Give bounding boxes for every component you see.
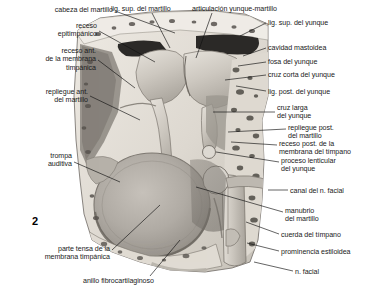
label-line: repliegue post.	[288, 124, 334, 132]
label-line: lig. sup. del yunque	[268, 19, 328, 27]
label-line: cavidad mastoidea	[268, 44, 326, 52]
label-line: epitimpánico	[58, 30, 97, 38]
label-line: canal del n. facial	[290, 187, 344, 195]
label-lig-post-del-yunque: lig. post. del yunque	[268, 88, 330, 96]
label-line: membrana del tímpano	[279, 148, 351, 156]
label-repliegue-post-del-martillo: repliegue post.del martillo	[288, 124, 334, 141]
label-line: auditiva	[48, 160, 72, 168]
label-line: n. facial	[295, 268, 319, 276]
label-line: repliegue ant.	[46, 88, 88, 96]
label-line: trompa	[48, 152, 72, 160]
lenticular-process	[203, 146, 216, 159]
label-prominencia-estiloidea: prominencia estiloidea	[281, 248, 351, 256]
label-proceso-lenticular-del-yunque: proceso lenticulardel yunque	[281, 157, 336, 174]
label-parte-tensa-membrana-timpanica: parte tensa de lamembrana timpánica	[45, 245, 110, 262]
label-trompa-auditiva: trompaauditiva	[48, 152, 72, 169]
label-line: membrana timpánica	[45, 253, 110, 261]
label-line: del yunque	[277, 112, 311, 120]
label-cruz-corta-del-yunque: cruz corta del yunque	[268, 71, 335, 79]
label-line: cabeza del martillo	[55, 6, 113, 14]
label-manubrio-del-martillo: manubriodel martillo	[285, 207, 319, 224]
label-line: fosa del yunque	[268, 58, 317, 66]
label-n-facial: n. facial	[295, 268, 319, 276]
label-fosa-del-yunque: fosa del yunque	[268, 58, 317, 66]
leader-n-facial	[254, 262, 293, 271]
label-line: manubrio	[285, 207, 319, 215]
label-lig-sup-del-martillo: lig. sup. del martillo	[111, 5, 171, 13]
label-cavidad-mastoidea: cavidad mastoidea	[268, 44, 326, 52]
label-anillo-fibrocartilaginoso: anillo fibrocartilaginoso	[83, 277, 154, 285]
label-line: anillo fibrocartilaginoso	[83, 277, 154, 285]
label-cabeza-del-martillo: cabeza del martillo	[55, 6, 113, 14]
label-line: del martillo	[46, 96, 88, 104]
figure-number: 2	[32, 215, 38, 227]
label-line: cuerda del tímpano	[281, 231, 341, 239]
label-line: timpánica	[45, 64, 96, 72]
label-line: lig. sup. del martillo	[111, 5, 171, 13]
label-receso-ant-membrana-timpanica: receso ant.de la membranatimpánica	[45, 47, 96, 72]
label-line: receso	[58, 22, 97, 30]
label-line: del yunque	[281, 165, 336, 173]
label-articulacion-yunque-martillo: articulación yunque-martillo	[192, 5, 277, 13]
label-line: cruz corta del yunque	[268, 71, 335, 79]
label-cuerda-del-timpano: cuerda del tímpano	[281, 231, 341, 239]
label-lig-sup-del-yunque: lig. sup. del yunque	[268, 19, 328, 27]
label-line: prominencia estiloidea	[281, 248, 351, 256]
label-line: de la membrana	[45, 55, 96, 63]
label-receso-post-membrana-timpano: receso post. de lamembrana del tímpano	[279, 140, 351, 157]
label-line: cruz larga	[277, 104, 311, 112]
label-line: parte tensa de la	[45, 245, 110, 253]
label-canal-del-n-facial: canal del n. facial	[290, 187, 344, 195]
label-line: articulación yunque-martillo	[192, 5, 277, 13]
label-line: proceso lenticular	[281, 157, 336, 165]
label-receso-epitimpanico: recesoepitimpánico	[58, 22, 97, 39]
label-cruz-larga-del-yunque: cruz largadel yunque	[277, 104, 311, 121]
label-line: del martillo	[285, 215, 319, 223]
figure-container: 2 lig. sup. del martilloarticulación yun…	[0, 0, 378, 293]
label-line: receso ant.	[45, 47, 96, 55]
label-line: receso post. de la	[279, 140, 351, 148]
label-line: lig. post. del yunque	[268, 88, 330, 96]
label-repliegue-ant-del-martillo: repliegue ant.del martillo	[46, 88, 88, 105]
